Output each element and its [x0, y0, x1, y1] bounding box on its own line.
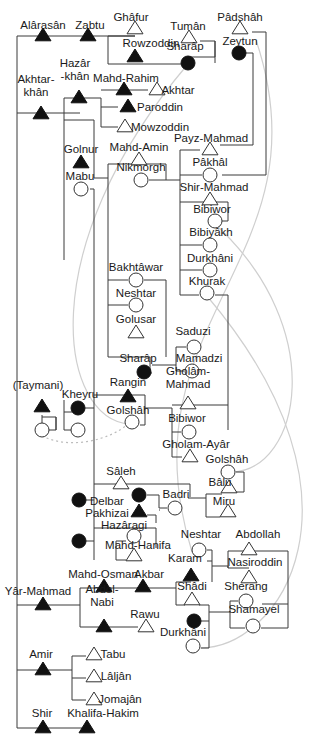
- person-label: Durkhâni: [160, 626, 206, 638]
- person-label: Sâleh: [106, 465, 135, 477]
- person-label: Ghâfur: [113, 11, 148, 23]
- person-label: Tabu: [101, 648, 126, 660]
- person-label: Mahd-Amin: [110, 141, 169, 153]
- person-golnur: Golnur: [64, 143, 99, 168]
- person-mahdhanifa: Mahd-Hanifa: [105, 539, 171, 561]
- person-saleh: Sâleh: [106, 465, 135, 489]
- person-saduzi: Saduzi: [175, 325, 210, 354]
- filled-triangle-icon: [127, 49, 143, 62]
- person-label: Zeytun: [222, 35, 257, 47]
- person-label: Akbar: [134, 568, 164, 580]
- person-bibiwor2: Bibiwor: [168, 412, 206, 439]
- person-khurak: Khurak: [189, 275, 226, 300]
- open-circle-icon: [74, 182, 88, 196]
- open-circle-icon: [182, 425, 196, 439]
- person-label: Jomajân: [98, 693, 141, 705]
- person-pakhal: Pâkhâl: [192, 156, 227, 182]
- person-label: Shamayel: [228, 603, 279, 615]
- person-label: Zabtu: [75, 19, 104, 31]
- filled-triangle-icon: [35, 662, 51, 675]
- person-delbar: Delbar: [90, 488, 146, 507]
- person-payzmahmad: Payz-Mahmad: [174, 132, 248, 155]
- open-triangle-icon: [113, 476, 129, 489]
- open-circle-icon: [246, 619, 260, 633]
- person-label: Sharâp: [166, 40, 203, 52]
- person-neshtar1: Neshtar: [116, 287, 156, 312]
- open-triangle-icon: [138, 619, 154, 632]
- person-label: Abdol-: [85, 583, 118, 595]
- person-rawu: Rawu: [130, 608, 159, 632]
- filled-triangle-icon: [183, 568, 199, 581]
- person-label: Bâlu: [208, 476, 231, 488]
- open-circle-icon: [186, 639, 200, 653]
- open-circle-icon: [134, 173, 148, 187]
- person-sharap2: Sharâp: [119, 352, 156, 379]
- open-triangle-icon: [86, 669, 102, 682]
- person-mabu: Mabu: [66, 170, 95, 196]
- person-label: Khurak: [189, 275, 226, 287]
- person-label: Saduzi: [175, 325, 210, 337]
- open-triangle-icon: [241, 542, 257, 555]
- person-label: Badri: [163, 488, 190, 500]
- open-circle-icon: [203, 168, 217, 182]
- person-label: Nasiroddin: [228, 556, 283, 568]
- open-triangle-icon: [184, 592, 200, 605]
- person-label: Abdollah: [236, 528, 281, 540]
- person-label: Bibiyâkh: [189, 226, 232, 238]
- person-yarmahmad: Yâr-Mahmad: [5, 585, 71, 610]
- person-shir: Shir: [32, 707, 53, 733]
- person-label: Amir: [29, 648, 53, 660]
- filled-triangle-icon: [135, 579, 151, 592]
- person-bibiyakh: Bibiyâkh: [189, 226, 232, 252]
- person-label: Yâr-Mahmad: [5, 585, 71, 597]
- person-balu: Bâlu: [208, 476, 237, 493]
- person-label: Golshâh: [107, 404, 150, 416]
- person-label: Alârasân: [20, 19, 65, 31]
- filled-triangle-icon: [33, 106, 49, 119]
- person-label: Mahmad: [166, 378, 211, 390]
- person-label: Paroddin: [137, 101, 183, 113]
- open-circle-icon: [200, 286, 214, 300]
- person-label: Tumân: [170, 20, 205, 32]
- person-label: Golusar: [116, 313, 156, 325]
- open-circle-icon: [203, 238, 217, 252]
- person-label: -khân: [61, 70, 90, 82]
- person-badri: Badri: [163, 488, 190, 515]
- person-nikmorgh: Nikmorgh: [116, 161, 165, 187]
- person-golusar: Golusar: [116, 313, 156, 338]
- person-label: (Taymani): [13, 379, 64, 391]
- kinship-diagram-canvas: AlârasânZabtuGhâfurRowzoddinTumânSharâpP…: [0, 0, 322, 744]
- person-label: Pâkhâl: [192, 156, 227, 168]
- open-circle-icon: [168, 501, 182, 515]
- kinship-diagram: AlârasânZabtuGhâfurRowzoddinTumânSharâpP…: [0, 0, 322, 744]
- person-karam: Karam: [168, 552, 202, 581]
- person-ghafur: Ghâfur: [113, 11, 148, 34]
- person-label: Mabu: [66, 170, 95, 182]
- person-gholammahmad: Gholâm-Mahmad: [166, 365, 211, 409]
- person-label: Miru: [213, 495, 235, 507]
- person-label: Mahd-Osman: [68, 568, 138, 580]
- person-tay_child_f1: [35, 423, 49, 437]
- person-mahd_wife: [72, 534, 86, 548]
- person-shirmahmad: Shir-Mahmad: [179, 181, 248, 205]
- filled-triangle-icon: [73, 155, 89, 168]
- person-label: Mahd-Hanifa: [105, 539, 171, 551]
- person-khalifahakim: Khalifa-Hakim: [67, 707, 139, 733]
- person-label: Bakhtâwar: [109, 261, 164, 273]
- open-circle-icon: [125, 415, 139, 429]
- person-label: khân: [24, 86, 49, 98]
- person-nasiroddin: Nasiroddin: [228, 556, 283, 583]
- person-label: Shâdi: [177, 580, 206, 592]
- person-label: Mamadzi: [176, 352, 223, 364]
- person-akhtarkhan: Akhtar-khân: [17, 73, 54, 119]
- person-label: Golnur: [64, 143, 99, 155]
- person-akhtar: Akhtar: [149, 82, 195, 96]
- person-label: Akhtar-: [17, 73, 54, 85]
- person-label: Lâljân: [101, 670, 132, 682]
- person-bibiwor1: Bibiwor: [193, 203, 231, 228]
- person-label: Akhtar: [161, 84, 194, 96]
- filled-circle-icon: [72, 534, 86, 548]
- person-mowzoddin: Mowzoddin: [117, 119, 189, 133]
- person-label: Hazâragi: [101, 519, 147, 531]
- filled-circle-icon: [181, 56, 195, 70]
